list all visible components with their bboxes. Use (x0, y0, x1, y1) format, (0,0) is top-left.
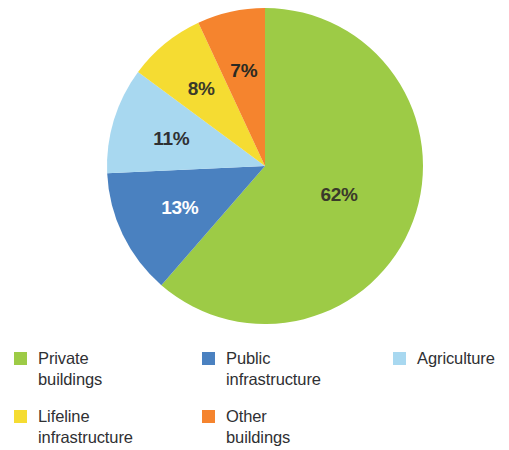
legend-item-public-infrastructure[interactable]: Public infrastructure (202, 348, 321, 390)
pie-slice-group (107, 8, 423, 324)
legend-item-lifeline-infrastructure[interactable]: Lifeline infrastructure (14, 406, 133, 448)
legend-swatch-lifeline-infrastructure (14, 410, 27, 423)
legend-swatch-public-infrastructure (202, 352, 215, 365)
chart-legend: Private buildings Public infrastructure … (0, 336, 509, 450)
legend-label-public-infrastructure: Public infrastructure (226, 348, 321, 390)
legend-swatch-private-buildings (14, 352, 27, 365)
legend-item-agriculture[interactable]: Agriculture (393, 348, 495, 369)
pie-slice-value-label: 62% (320, 184, 358, 205)
legend-label-private-buildings: Private buildings (38, 348, 102, 390)
legend-item-other-buildings[interactable]: Other buildings (202, 406, 290, 448)
legend-label-agriculture: Agriculture (417, 348, 495, 369)
pie-chart: 62%13%11%8%7% (0, 0, 509, 336)
legend-swatch-other-buildings (202, 410, 215, 423)
pie-slice-value-label: 8% (188, 78, 215, 99)
legend-label-other-buildings: Other buildings (226, 406, 290, 448)
pie-slice-value-label: 13% (161, 197, 199, 218)
legend-item-private-buildings[interactable]: Private buildings (14, 348, 102, 390)
pie-slice-value-label: 11% (153, 128, 189, 149)
legend-label-lifeline-infrastructure: Lifeline infrastructure (38, 406, 133, 448)
pie-slice-value-label: 7% (230, 60, 257, 81)
legend-swatch-agriculture (393, 352, 406, 365)
pie-chart-svg: 62%13%11%8%7% (0, 0, 509, 336)
